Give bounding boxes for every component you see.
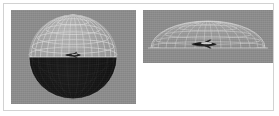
- dome-diagram: [143, 10, 273, 63]
- figure-root: [0, 0, 279, 116]
- panel-wireframe-dome: [143, 10, 273, 63]
- sphere-diagram: [11, 10, 136, 104]
- panel-wireframe-sphere: [11, 10, 136, 104]
